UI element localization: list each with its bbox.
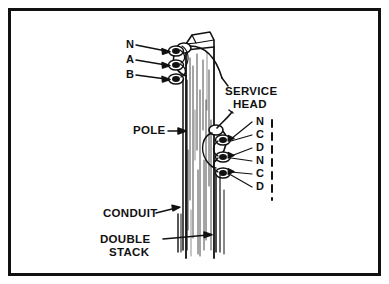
conduit-pipes — [178, 80, 224, 254]
label-upper-b: B — [126, 68, 134, 80]
label-lower-n2: N — [256, 154, 264, 166]
label-pole: POLE — [133, 124, 166, 136]
lower-service-head — [203, 112, 232, 178]
pole-body — [186, 32, 214, 258]
label-double-stack-line1: DOUBLE — [100, 233, 150, 245]
label-lower-n1: N — [256, 115, 264, 127]
label-lower-c1: C — [256, 128, 264, 140]
label-upper-n: N — [126, 38, 134, 50]
label-double-stack-line2: STACK — [109, 246, 149, 258]
label-lower-c2: C — [256, 167, 264, 179]
label-lower-d1: D — [256, 141, 264, 153]
pole-diagram-artwork — [0, 0, 389, 284]
label-upper-a: A — [126, 53, 134, 65]
diagram-canvas: N A B SERVICE HEAD POLE N C D N C D COND… — [0, 0, 389, 284]
label-lower-d2: D — [256, 180, 264, 192]
label-conduit: CONDUIT — [103, 207, 158, 219]
label-service-head-line1: SERVICE — [225, 85, 277, 97]
label-service-head-line2: HEAD — [233, 98, 267, 110]
